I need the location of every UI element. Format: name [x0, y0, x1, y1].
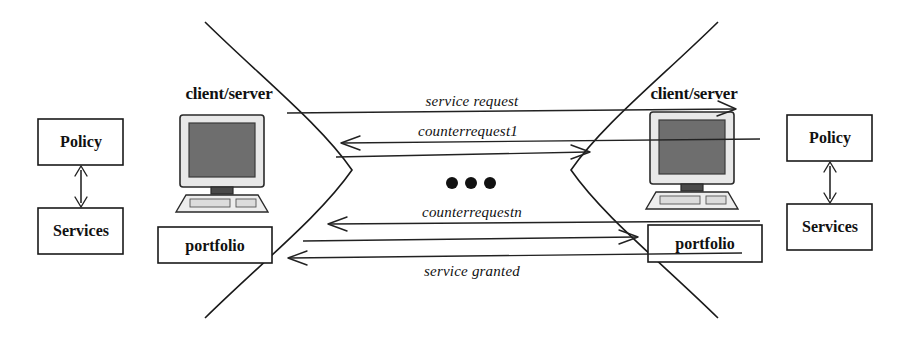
right-policy-services-arrow — [824, 162, 836, 203]
left-policy-label: Policy — [60, 134, 102, 150]
right-policy-label: Policy — [809, 130, 851, 146]
message-label-counterrequestn: counterrequestn — [422, 205, 522, 220]
message-arrow-unlabeled-lower — [303, 230, 638, 244]
right-actor-label: client/server — [650, 85, 737, 102]
left-computer-icon — [176, 115, 268, 212]
left-portfolio-label: portfolio — [185, 238, 245, 254]
left-policy-services-arrow — [75, 166, 87, 207]
left-services-label: Services — [53, 223, 109, 239]
ellipsis-dots — [446, 177, 496, 189]
message-label-counterrequest1: counterrequest1 — [418, 124, 518, 139]
right-services-label: Services — [802, 219, 858, 235]
left-actor-label: client/server — [185, 85, 272, 102]
message-arrow-unlabeled-upper — [336, 145, 590, 159]
message-label-service-request: service request — [426, 94, 519, 109]
right-computer-icon — [646, 112, 738, 209]
diagram-vector-layer — [0, 0, 906, 337]
message-label-service-granted: service granted — [424, 264, 520, 279]
diagram-canvas: Policy Services client/server portfolio … — [0, 0, 906, 337]
right-portfolio-label: portfolio — [675, 236, 735, 252]
